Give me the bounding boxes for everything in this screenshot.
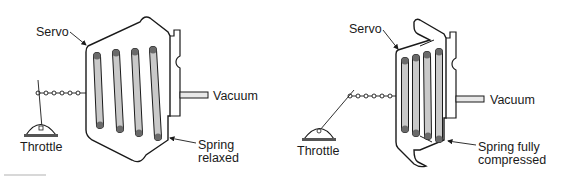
spring-label-line1: Spring [198,138,234,152]
throttle-chain [348,94,396,98]
panel-compressed: Servo Vacuum Throttle Spring fully compr… [297,19,546,167]
servo-label: Servo [36,25,69,39]
throttle-chain [36,91,86,95]
spring-label-line1: Spring fully [478,140,541,154]
throttle-icon [302,129,336,142]
throttle-icon [24,125,58,138]
spring-label-line2: relaxed [198,151,239,165]
throttle-label: Throttle [20,140,62,154]
servo-bracket [446,32,456,118]
panel-relaxed: Servo Vacuum Throttle Spring relaxed [20,17,258,165]
spring-label-line2: compressed [478,153,546,167]
vacuum-label: Vacuum [490,93,535,107]
servo-label: Servo [349,22,382,36]
vacuum-label: Vacuum [213,89,258,103]
servo-bracket [170,30,180,116]
vacuum-tube [456,96,484,102]
throttle-label: Throttle [297,144,339,158]
servo-diagram: Servo Vacuum Throttle Spring relaxed [0,0,563,181]
vacuum-tube [180,92,208,98]
caption-rule [4,174,46,176]
